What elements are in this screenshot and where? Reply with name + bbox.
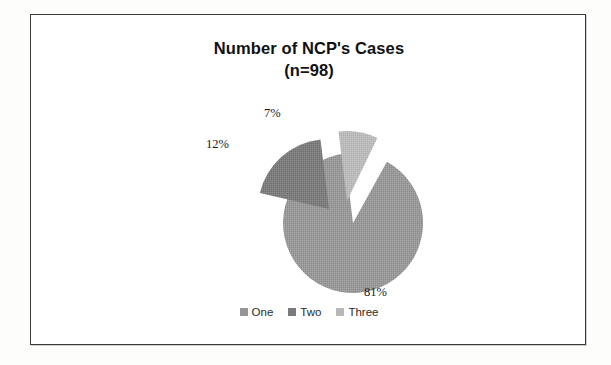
chart-legend: One Two Three bbox=[31, 306, 587, 318]
data-label-two: 12% bbox=[206, 137, 229, 152]
legend-swatch-three bbox=[336, 308, 344, 316]
chart-frame: Number of NCP's Cases (n=98) bbox=[30, 14, 586, 345]
legend-label-two: Two bbox=[300, 306, 321, 318]
chart-title-line1: Number of NCP's Cases bbox=[214, 39, 404, 57]
legend-swatch-one bbox=[240, 308, 248, 316]
legend-swatch-two bbox=[288, 308, 296, 316]
pie-slice-two bbox=[260, 140, 329, 210]
legend-item-three[interactable]: Three bbox=[336, 306, 378, 318]
pie-chart-svg bbox=[31, 75, 587, 305]
scanned-page: Number of NCP's Cases (n=98) bbox=[0, 0, 611, 365]
pie-slice-two-group bbox=[260, 140, 329, 210]
legend-label-one: One bbox=[252, 306, 274, 318]
pie-plot-area: 7% 12% 81% bbox=[31, 75, 587, 305]
legend-item-one[interactable]: One bbox=[240, 306, 274, 318]
legend-item-two[interactable]: Two bbox=[288, 306, 321, 318]
data-label-one: 81% bbox=[364, 285, 387, 300]
data-label-three: 7% bbox=[264, 106, 281, 121]
legend-label-three: Three bbox=[348, 306, 378, 318]
